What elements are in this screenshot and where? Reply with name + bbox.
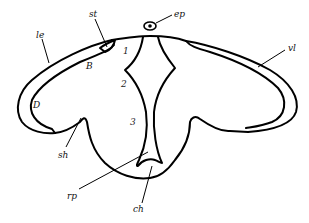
central-structure [125, 37, 175, 166]
label-vl: vl [288, 43, 296, 53]
label-D: D [32, 100, 40, 110]
diagram-canvas: st ep le vl B D sh rp ch 1 2 3 [0, 0, 309, 223]
label-le: le [36, 30, 44, 40]
region-number-1: 1 [123, 46, 129, 56]
leader-lines [42, 15, 285, 203]
region-number-2: 2 [120, 79, 127, 89]
label-st: st [89, 9, 98, 19]
label-sh: sh [58, 150, 68, 160]
label-rp: rp [67, 191, 77, 201]
label-ep: ep [174, 9, 185, 19]
label-B: B [85, 61, 93, 71]
label-ch: ch [133, 204, 144, 214]
eye-spot [144, 22, 156, 30]
region-number-3: 3 [130, 117, 136, 127]
